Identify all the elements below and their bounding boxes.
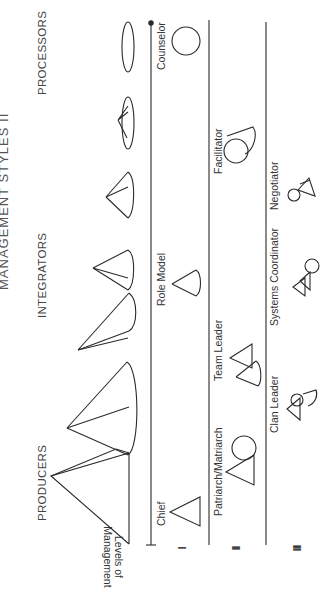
patriarch-matriarch-icon [226, 436, 256, 485]
cone-4-icon [93, 250, 134, 290]
negotiator-icon [288, 178, 315, 201]
label-patriarch-matriarch: Patriarch/Matriarch [212, 427, 224, 516]
team-leader-icon [230, 344, 261, 386]
ellipse-icon [122, 22, 134, 72]
systems-coordinator-icon [293, 259, 319, 296]
cone-large-icon [67, 362, 137, 455]
level-numeral-2: II [230, 546, 241, 550]
chief-icon [170, 497, 200, 526]
label-negotiator: Negotiator [268, 162, 280, 210]
label-chief: Chief [155, 501, 167, 526]
label-team-leader: Team Leader [212, 320, 224, 381]
levels-of-management-label: Levels of Management [102, 522, 124, 592]
level-numeral-3: III [291, 545, 302, 550]
level-numeral-1: I [176, 547, 187, 549]
cone-5-icon [106, 172, 134, 218]
levels-label-line1: Levels of [113, 522, 124, 592]
counselor-icon [172, 27, 200, 55]
cone-3-icon [78, 293, 136, 350]
facilitator-icon [224, 127, 255, 163]
role-model-icon [172, 270, 201, 296]
label-facilitator: Facilitator [212, 128, 224, 174]
clan-leader-icon [287, 390, 317, 420]
label-clan-leader: Clan Leader [268, 376, 280, 433]
cone-flat-icon [118, 97, 134, 149]
label-counselor: Counselor [155, 22, 167, 70]
label-role-model: Role Model [155, 253, 167, 306]
label-systems-coordinator: Systems Coordinator [268, 228, 280, 326]
levels-label-line2: Management [102, 522, 113, 592]
